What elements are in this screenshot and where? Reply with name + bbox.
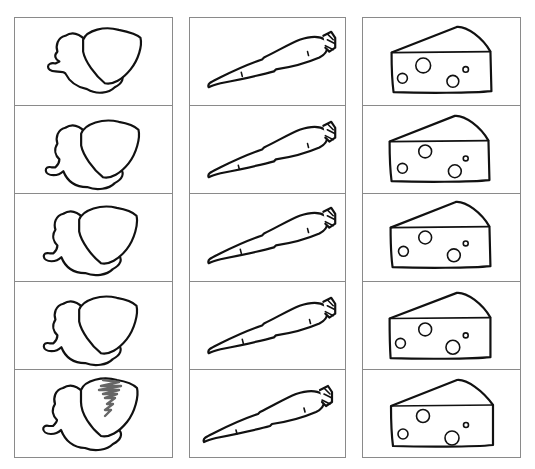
carrot-icon [190,194,345,281]
cheese-column [362,17,521,458]
carrot-column [189,17,346,458]
cheese-icon [363,282,520,369]
carrot-icon [190,18,345,105]
cheese-cell-4[interactable] [363,282,520,370]
acorn-icon [15,282,172,369]
carrot-cell-5[interactable] [190,370,345,458]
acorn-column [14,17,173,458]
acorn-cell-1[interactable] [15,18,172,106]
acorn-icon [15,194,172,281]
carrot-cell-4[interactable] [190,282,345,370]
cheese-icon [363,194,520,281]
carrot-icon [190,282,345,369]
carrot-icon [190,106,345,193]
carrot-icon [190,370,345,458]
cheese-cell-3[interactable] [363,194,520,282]
acorn-icon [15,106,172,193]
cheese-icon [363,18,520,105]
carrot-cell-1[interactable] [190,18,345,106]
cheese-cell-1[interactable] [363,18,520,106]
acorn-cell-3[interactable] [15,194,172,282]
acorn-cell-2[interactable] [15,106,172,194]
acorn-icon [15,370,172,458]
acorn-cell-5-shaded[interactable] [15,370,172,458]
carrot-cell-2[interactable] [190,106,345,194]
cheese-icon [363,370,520,458]
acorn-cell-4[interactable] [15,282,172,370]
cheese-cell-5[interactable] [363,370,520,458]
cheese-icon [363,106,520,193]
cheese-cell-2[interactable] [363,106,520,194]
acorn-icon [15,18,172,105]
carrot-cell-3[interactable] [190,194,345,282]
